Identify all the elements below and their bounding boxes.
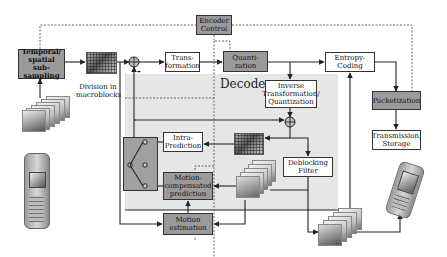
input-video-frames (22, 96, 72, 132)
reference-frame-buffer (236, 160, 276, 205)
output-video-frames (318, 208, 363, 248)
reconstructed-macroblock-image (234, 133, 264, 155)
source-mobile-phone (24, 153, 50, 229)
